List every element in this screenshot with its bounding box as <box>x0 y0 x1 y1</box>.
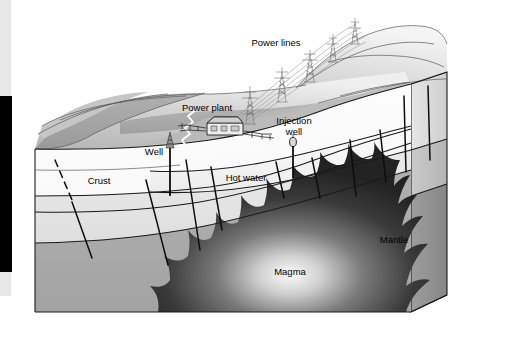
label-well: Well <box>145 146 163 157</box>
label-hot-water: Hot water <box>226 172 267 183</box>
label-injection-well-line2: well <box>285 126 302 137</box>
label-mantle: Mantle <box>380 234 409 245</box>
geothermal-block-diagram: Power lines Power plant Well Injection w… <box>0 0 518 339</box>
label-crust: Crust <box>88 175 111 186</box>
label-power-plant: Power plant <box>182 102 233 113</box>
label-power-lines: Power lines <box>251 37 300 48</box>
diagram-canvas: Power lines Power plant Well Injection w… <box>0 0 518 339</box>
label-magma: Magma <box>274 266 306 277</box>
label-injection-well-line1: Injection <box>276 115 311 126</box>
